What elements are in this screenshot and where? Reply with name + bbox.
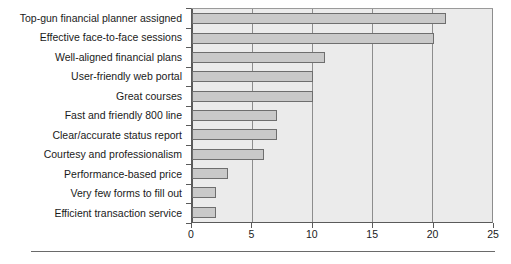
- bar-row: [192, 164, 492, 183]
- bar: [192, 52, 325, 63]
- category-label: Courtesy and professionalism: [44, 149, 182, 160]
- bottom-divider: [31, 251, 495, 252]
- category-label: Very few forms to fill out: [71, 188, 182, 199]
- bar-row: [192, 145, 492, 164]
- category-label-row: Great courses: [0, 86, 187, 106]
- category-label: Fast and friendly 800 line: [65, 110, 182, 121]
- bar-row: [192, 28, 492, 47]
- category-label: Efficient transaction service: [54, 208, 182, 219]
- bar-row: [192, 67, 492, 86]
- x-axis-tick-label: 5: [248, 229, 254, 240]
- x-axis-tick-label: 0: [188, 229, 194, 240]
- bar-row: [192, 9, 492, 28]
- category-label-row: Efficient transaction service: [0, 203, 187, 223]
- bar: [192, 110, 277, 121]
- x-axis-tick-label: 20: [427, 229, 439, 240]
- category-label-row: User-friendly web portal: [0, 67, 187, 87]
- category-label-row: Clear/accurate status report: [0, 125, 187, 145]
- bar-row: [192, 48, 492, 67]
- bar: [192, 13, 446, 24]
- x-axis-tick-label: 25: [487, 229, 499, 240]
- category-label-row: Effective face-to-face sessions: [0, 28, 187, 48]
- category-label-row: Fast and friendly 800 line: [0, 106, 187, 126]
- category-label: Performance-based price: [64, 169, 182, 180]
- x-axis-tick-label: 15: [366, 229, 378, 240]
- category-label: Clear/accurate status report: [52, 130, 182, 141]
- bar: [192, 149, 264, 160]
- bar-row: [192, 106, 492, 125]
- bar: [192, 129, 277, 140]
- category-axis-labels: Top-gun financial planner assignedEffect…: [0, 8, 187, 223]
- category-label: Great courses: [116, 91, 182, 102]
- x-axis-tick-labels: 0510152025: [191, 229, 493, 243]
- category-label-row: Top-gun financial planner assigned: [0, 8, 187, 28]
- bar: [192, 71, 313, 82]
- bar: [192, 207, 216, 218]
- category-label: Well-aligned financial plans: [55, 52, 182, 63]
- category-label-row: Very few forms to fill out: [0, 184, 187, 204]
- category-label-row: Performance-based price: [0, 164, 187, 184]
- bars-layer: [192, 9, 492, 222]
- plot-area: [191, 8, 493, 223]
- category-label-row: Courtesy and professionalism: [0, 145, 187, 165]
- x-axis-tick-label: 10: [306, 229, 318, 240]
- bar-row: [192, 183, 492, 202]
- bar-row: [192, 203, 492, 222]
- horizontal-bar-chart: Top-gun financial planner assignedEffect…: [0, 0, 511, 264]
- bar: [192, 168, 228, 179]
- bar-row: [192, 86, 492, 105]
- bar: [192, 187, 216, 198]
- bar-row: [192, 125, 492, 144]
- category-label: Effective face-to-face sessions: [40, 32, 182, 43]
- bar: [192, 91, 313, 102]
- gridline-25: [492, 9, 493, 222]
- category-label: User-friendly web portal: [71, 71, 182, 82]
- category-label: Top-gun financial planner assigned: [20, 13, 182, 24]
- category-label-row: Well-aligned financial plans: [0, 47, 187, 67]
- bar: [192, 33, 434, 44]
- x-axis-ticks: [191, 223, 493, 228]
